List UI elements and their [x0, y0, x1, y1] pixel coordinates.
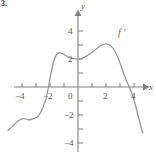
curve-f-prime — [8, 44, 143, 133]
x-tick-label-0: 0 — [68, 92, 73, 101]
curve-label-f-prime: f ′ — [118, 28, 125, 38]
graph-canvas — [0, 0, 156, 159]
x-tick-label--2: −2 — [43, 92, 53, 101]
y-axis-label: y — [81, 2, 85, 11]
x-tick-label-4: 4 — [131, 92, 136, 101]
y-tick-label-4: 4 — [68, 27, 73, 36]
x-tick-label-2: 2 — [103, 92, 108, 101]
x-axis-label: x — [149, 83, 153, 92]
y-tick-label--4: −4 — [64, 139, 74, 148]
x-tick-label--4: −4 — [15, 92, 25, 101]
y-tick-label-2: 2 — [68, 55, 73, 64]
y-tick-label--2: −2 — [64, 111, 74, 120]
graph-figure: 3. — [0, 0, 156, 159]
